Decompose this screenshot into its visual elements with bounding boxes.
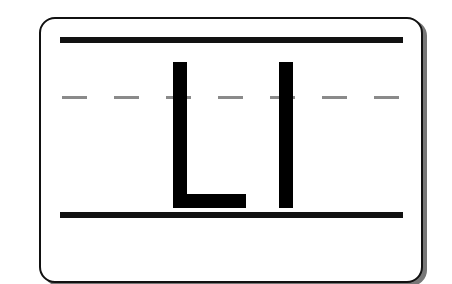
midline-dashed-guideline bbox=[62, 96, 402, 99]
baseline-guideline bbox=[60, 212, 403, 218]
letter-i bbox=[279, 62, 293, 208]
handwriting-card bbox=[39, 17, 423, 283]
letters-text: LI bbox=[0, 0, 1, 1]
letter-l-stem bbox=[173, 62, 187, 208]
top-guideline bbox=[60, 37, 403, 43]
letter-l-foot bbox=[173, 194, 246, 208]
